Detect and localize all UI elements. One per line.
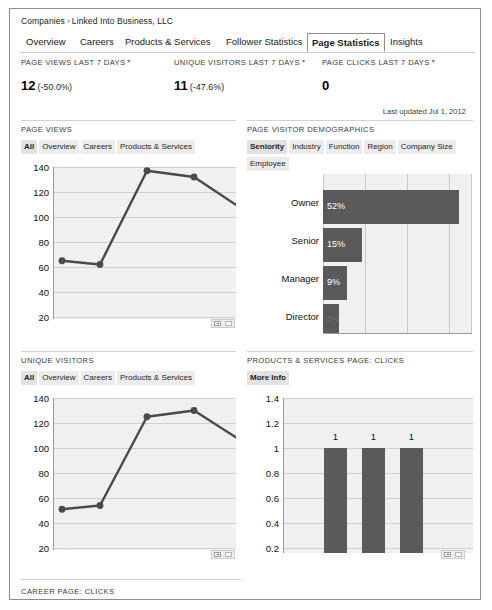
bar-click-1[interactable]	[324, 448, 347, 553]
kpi-page-views: PAGE VIEWS LAST 7 DAYS▾ 12(-50.0%)	[21, 57, 131, 94]
bar-category-label: Senior	[247, 235, 319, 246]
filter-unique-visitors-products-services[interactable]: Products & Services	[117, 371, 195, 385]
kpi-page-views-label: PAGE VIEWS LAST 7 DAYS▾	[21, 57, 131, 67]
filter-unique-visitors-careers[interactable]: Careers	[81, 371, 115, 385]
panel-products-clicks-title: PRODUCTS & SERVICES PAGE: CLICKS	[247, 351, 473, 365]
bar-value-2: 1	[362, 431, 385, 442]
bar-value-owner: 52%	[327, 201, 345, 211]
bar-category-label: Director	[247, 311, 319, 322]
bar-value-manager: 9%	[327, 277, 340, 287]
kpi-page-views-value-row: 12(-50.0%)	[21, 76, 131, 94]
chart-unique-visitors[interactable]: 140 120 100 80 60 40 20	[21, 390, 236, 565]
panel-products-clicks-filters: More Info	[247, 369, 473, 386]
breadcrumb: Companies›Linked Into Business, LLC	[21, 16, 173, 26]
ytick: 40	[38, 287, 49, 298]
zoom-out-button[interactable]	[455, 552, 462, 557]
kpi-page-views-value: 12	[21, 78, 35, 93]
kpi-page-views-label-text: PAGE VIEWS LAST 7 DAYS	[21, 58, 125, 67]
bar-value-senior: 15%	[327, 239, 345, 249]
tab-page-statistics[interactable]: Page Statistics	[307, 33, 385, 52]
chart-page-views-series	[54, 167, 236, 319]
chart-unique-visitors-zoom-control[interactable]	[211, 550, 235, 559]
gridline	[471, 174, 472, 334]
kpi-row: PAGE VIEWS LAST 7 DAYS▾ 12(-50.0%) UNIQU…	[21, 57, 473, 97]
panel-page-views-filters: AllOverviewCareersProducts & Services	[21, 138, 236, 155]
filter-unique-visitors-overview[interactable]: Overview	[39, 371, 78, 385]
chart-unique-visitors-series	[54, 398, 236, 550]
chevron-down-icon[interactable]: ▾	[430, 58, 435, 64]
ytick: 40	[38, 518, 49, 529]
ytick: 0.2	[266, 543, 279, 554]
ytick: 60	[38, 262, 49, 273]
kpi-page-clicks-delta	[329, 82, 331, 92]
chevron-down-icon[interactable]: ▾	[125, 58, 130, 64]
panel-demographics-title: PAGE VISITOR DEMOGRAPHICS	[247, 120, 473, 134]
chart-visitor-demographics[interactable]: Owner Senior Manager Director 52% 15% 9%…	[247, 169, 473, 334]
chart-products-clicks[interactable]: 1.4 1.2 1 0.8 0.6 0.4 0.2 1 1 1	[247, 390, 473, 565]
filter-demographics-region[interactable]: Region	[364, 140, 395, 154]
career-clicks-divider	[21, 579, 241, 580]
bar-click-3[interactable]	[400, 448, 423, 553]
filter-page-views-careers[interactable]: Careers	[81, 140, 115, 154]
kpi-unique-visitors-value-row: 11(-47.6%)	[174, 76, 305, 94]
filter-products-more-info[interactable]: More Info	[247, 371, 289, 385]
ytick: 60	[38, 493, 49, 504]
panel-page-views-title: PAGE VIEWS	[21, 120, 236, 134]
zoom-out-button[interactable]	[225, 321, 232, 326]
kpi-page-clicks: PAGE CLICKS LAST 7 DAYS▾ 0	[322, 57, 435, 94]
ytick: 1.4	[266, 393, 279, 404]
tab-insights[interactable]: Insights	[386, 33, 427, 50]
gridline	[284, 398, 473, 399]
panel-unique-visitors: UNIQUE VISITORS AllOverviewCareersProduc…	[21, 351, 236, 386]
tab-follower-statistics[interactable]: Follower Statistics	[222, 33, 307, 50]
kpi-page-clicks-value-row: 0	[322, 76, 435, 94]
zoom-out-button[interactable]	[225, 552, 232, 557]
chart-demographics-plot: 52% 15% 9% 4%	[323, 174, 472, 334]
breadcrumb-companies[interactable]: Companies	[21, 16, 65, 26]
filter-page-views-all[interactable]: All	[21, 140, 37, 154]
chart-products-clicks-zoom-control[interactable]	[441, 550, 465, 559]
chevron-down-icon[interactable]: ▾	[300, 58, 305, 64]
bar-value-1: 1	[324, 431, 347, 442]
filter-unique-visitors-all[interactable]: All	[21, 371, 37, 385]
chart-products-clicks-plot: 1 1 1	[283, 398, 473, 553]
filter-demographics-company-size[interactable]: Company Size	[398, 140, 456, 154]
panel-demographics-filters: SeniorityIndustryFunctionRegionCompany S…	[247, 138, 473, 172]
tab-careers[interactable]: Careers	[76, 33, 118, 50]
ytick: 20	[38, 543, 49, 554]
filter-page-views-products-services[interactable]: Products & Services	[117, 140, 195, 154]
kpi-page-views-delta: (-50.0%)	[35, 82, 72, 92]
tab-overview[interactable]: Overview	[22, 33, 70, 50]
chart-products-clicks-y-axis: 1.4 1.2 1 0.8 0.6 0.4 0.2	[247, 390, 279, 555]
ytick: 100	[33, 212, 49, 223]
bar-category-label: Manager	[247, 273, 319, 284]
filter-page-views-overview[interactable]: Overview	[39, 140, 78, 154]
panel-unique-visitors-title: UNIQUE VISITORS	[21, 351, 236, 365]
gridline	[284, 423, 473, 424]
chart-unique-visitors-plot	[53, 398, 236, 550]
panel-unique-visitors-filters: AllOverviewCareersProducts & Services	[21, 369, 236, 386]
panel-visitor-demographics: PAGE VISITOR DEMOGRAPHICS SeniorityIndus…	[247, 120, 473, 172]
zoom-in-button[interactable]	[214, 552, 221, 557]
tab-products-services[interactable]: Products & Services	[121, 33, 215, 50]
last-updated-text: Last updated Jul 1, 2012	[383, 107, 466, 116]
ytick: 1.2	[266, 418, 279, 429]
bar-value-3: 1	[400, 431, 423, 442]
filter-demographics-seniority[interactable]: Seniority	[247, 140, 287, 154]
kpi-unique-visitors-label: UNIQUE VISITORS LAST 7 DAYS▾	[174, 57, 305, 67]
chart-demographics-axis	[323, 333, 472, 334]
ytick: 140	[33, 162, 49, 173]
filter-demographics-function[interactable]: Function	[326, 140, 363, 154]
chart-page-views[interactable]: 140 120 100 80 60 40 20	[21, 159, 236, 334]
filter-demographics-industry[interactable]: Industry	[289, 140, 323, 154]
chart-unique-visitors-y-axis: 140 120 100 80 60 40 20	[21, 390, 49, 555]
kpi-unique-visitors-delta: (-47.6%)	[188, 82, 225, 92]
ytick: 80	[38, 237, 49, 248]
zoom-in-button[interactable]	[444, 552, 451, 557]
chart-page-views-zoom-control[interactable]	[211, 319, 235, 328]
zoom-in-button[interactable]	[214, 321, 221, 326]
bar-click-2[interactable]	[362, 448, 385, 553]
breadcrumb-current: Linked Into Business, LLC	[72, 16, 173, 26]
panel-page-views: PAGE VIEWS AllOverviewCareersProducts & …	[21, 120, 236, 155]
kpi-page-clicks-label-text: PAGE CLICKS LAST 7 DAYS	[322, 58, 430, 67]
